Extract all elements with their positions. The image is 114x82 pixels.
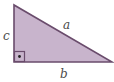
triangle-shape: [14, 5, 112, 62]
side-label-c: c: [3, 29, 10, 43]
side-label-a: a: [63, 18, 70, 32]
right-angle-dot: [18, 55, 21, 58]
right-triangle-diagram: a c b: [0, 0, 114, 82]
side-label-b: b: [60, 67, 68, 81]
